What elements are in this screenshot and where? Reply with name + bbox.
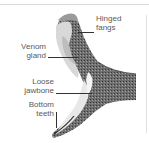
label-line-2: teeth bbox=[14, 109, 54, 118]
label-line-1: Hinged bbox=[96, 14, 121, 23]
label-line-2: gland bbox=[14, 51, 46, 60]
label-hinged-fangs: Hinged fangs bbox=[96, 14, 121, 32]
label-line-1: Venom bbox=[14, 42, 46, 51]
leader-hinged-fangs bbox=[78, 32, 94, 33]
leader-loose-jawbone bbox=[56, 93, 92, 94]
label-line-2: jawbone bbox=[12, 86, 54, 95]
leader-bottom-teeth bbox=[56, 112, 57, 128]
label-line-1: Bottom bbox=[14, 100, 54, 109]
label-bottom-teeth: Bottom teeth bbox=[14, 100, 54, 118]
label-line-2: fangs bbox=[96, 23, 121, 32]
snake-mouth-illustration bbox=[0, 0, 149, 143]
label-venom-gland: Venom gland bbox=[14, 42, 46, 60]
leader-venom-gland bbox=[48, 57, 78, 58]
label-loose-jawbone: Loose jawbone bbox=[12, 77, 54, 95]
label-line-1: Loose bbox=[12, 77, 54, 86]
